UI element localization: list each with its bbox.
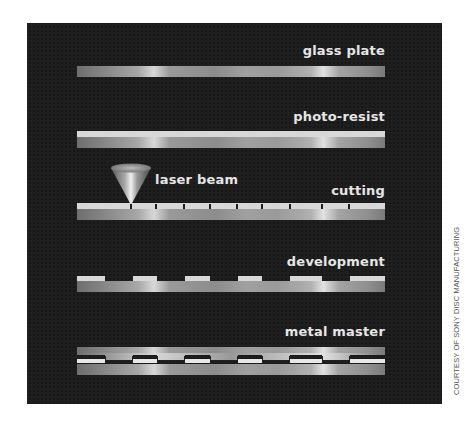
laser-cone-icon [110, 163, 152, 207]
label-metal-master: metal master [285, 324, 385, 339]
label-development: development [287, 254, 385, 269]
label-photo-resist: photo-resist [293, 109, 385, 124]
glass-plate-bar [77, 66, 385, 77]
label-glass-plate: glass plate [303, 43, 385, 58]
label-laser-beam: laser beam [155, 172, 238, 187]
credit-line: COURTESY OF SONY DISC MANUFACTURING [452, 227, 461, 395]
diagram-panel: glass plate photo-resist laser beam cutt… [27, 23, 442, 404]
label-cutting: cutting [331, 183, 385, 198]
